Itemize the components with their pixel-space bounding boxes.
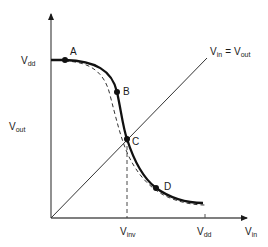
y-axis-label: Vout: [9, 121, 25, 133]
transfer-characteristic-diagram: A B C D Vdd Vout Vinv Vdd Vin Vin=Vout: [0, 0, 268, 247]
point-c-marker: [124, 136, 130, 142]
point-a-marker: [62, 57, 68, 63]
point-d-label: D: [164, 181, 171, 192]
point-b-label: B: [123, 86, 130, 97]
dashed-transfer-curve: [65, 61, 205, 205]
point-c-label: C: [132, 136, 139, 147]
x-axis-label: Vin: [245, 226, 257, 238]
point-a-label: A: [70, 46, 77, 57]
point-b-marker: [114, 89, 120, 95]
x-vdd-label: Vdd: [197, 226, 212, 238]
point-d-marker: [153, 185, 159, 191]
y-vdd-label: Vdd: [21, 55, 36, 67]
unity-gain-label: Vin=Vout: [210, 46, 250, 58]
x-vinv-label: Vinv: [120, 226, 136, 238]
